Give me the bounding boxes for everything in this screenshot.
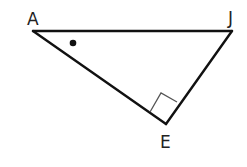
triangle-diagram: A J E (0, 0, 247, 167)
vertex-label-j: J (227, 8, 233, 28)
vertex-label-a: A (27, 9, 39, 29)
vertex-label-e: E (160, 132, 171, 152)
side-ae (33, 31, 166, 124)
right-angle-marker (150, 93, 177, 112)
angle-dot-marker (70, 40, 77, 47)
side-je (166, 31, 232, 124)
